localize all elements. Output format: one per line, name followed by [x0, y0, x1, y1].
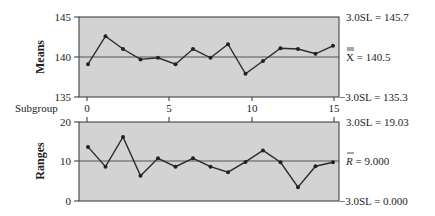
data-point — [331, 160, 335, 164]
data-point — [209, 56, 213, 60]
data-point — [261, 59, 265, 63]
data-point — [156, 56, 160, 60]
data-point — [86, 62, 90, 66]
control-chart: 145 140 135 Means 3.0SL = 145.7 X = 140.… — [0, 0, 435, 216]
ranges-axis-title: Ranges — [33, 142, 47, 180]
means-ucl-label: 3.0SL = 145.7 — [346, 11, 409, 23]
data-point — [314, 164, 318, 168]
data-point — [139, 174, 143, 178]
data-point — [244, 72, 248, 76]
data-point — [296, 185, 300, 189]
ranges-panel: 20 10 0 Ranges 3.0SL = 19.03 R = 9.000 −… — [33, 116, 409, 207]
data-point — [139, 57, 143, 61]
data-point — [104, 165, 108, 169]
data-point — [261, 148, 265, 152]
xbarbar-symbol: X — [346, 51, 354, 63]
ranges-center-label: R = 9.000 — [345, 153, 390, 167]
data-point — [226, 42, 230, 46]
data-point — [226, 170, 230, 174]
x-tick-label: 5 — [166, 102, 172, 114]
ranges-ytick-label: 20 — [60, 116, 72, 128]
data-point — [86, 145, 90, 149]
data-point — [121, 135, 125, 139]
means-axis-title: Means — [33, 40, 47, 74]
svg-text:R = 9.000: R = 9.000 — [345, 155, 390, 167]
data-point — [244, 160, 248, 164]
data-point — [156, 156, 160, 160]
data-point — [296, 47, 300, 51]
data-point — [174, 62, 178, 66]
ranges-ytick-label: 10 — [60, 155, 72, 167]
data-point — [191, 47, 195, 51]
means-ytick-label: 145 — [55, 11, 72, 23]
means-ytick-label: 140 — [55, 51, 72, 63]
x-tick-label: 15 — [329, 102, 341, 114]
x-tick-label: 10 — [247, 102, 259, 114]
data-point — [331, 44, 335, 48]
x-axis-title: Subgroup — [15, 102, 58, 114]
means-center-value: = 140.5 — [354, 51, 391, 63]
ranges-ytick-label: 0 — [66, 195, 72, 207]
data-point — [104, 34, 108, 38]
data-point — [191, 156, 195, 160]
data-point — [314, 52, 318, 56]
data-point — [279, 46, 283, 50]
data-point — [174, 165, 178, 169]
data-point — [209, 165, 213, 169]
ranges-ucl-label: 3.0SL = 19.03 — [346, 116, 409, 128]
ranges-lcl-label: −3.0SL = 0.000 — [339, 195, 408, 207]
means-lcl-label: −3.0SL = 135.3 — [339, 91, 408, 103]
data-point — [279, 160, 283, 164]
ranges-center-value: = 9.000 — [353, 155, 390, 167]
means-center-label: X = 140.5 — [346, 48, 391, 63]
means-panel: 145 140 135 Means 3.0SL = 145.7 X = 140.… — [33, 11, 409, 103]
x-tick-label: 0 — [84, 102, 90, 114]
svg-text:X = 140.5: X = 140.5 — [346, 51, 391, 63]
data-point — [121, 47, 125, 51]
